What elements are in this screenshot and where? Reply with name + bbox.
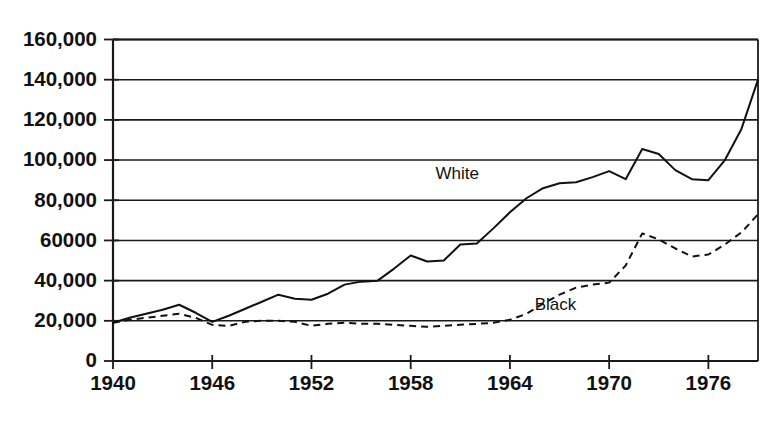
series-line-black bbox=[113, 214, 758, 327]
y-tick-label-0: 0 bbox=[86, 348, 97, 371]
x-axis-tick-labels: 1940194619521958196419701976 bbox=[90, 371, 731, 394]
x-tick-label-1970: 1970 bbox=[586, 371, 632, 394]
y-tick-label-60000: 60000 bbox=[40, 228, 97, 251]
series-label-black: Black bbox=[535, 295, 577, 314]
y-axis-tickmarks bbox=[104, 40, 119, 362]
y-tick-label-120000: 120,000 bbox=[23, 107, 97, 130]
y-tick-label-40000: 40,000 bbox=[34, 268, 97, 291]
y-tick-label-20000: 20,000 bbox=[34, 308, 97, 331]
y-tick-label-160000: 160,000 bbox=[23, 27, 97, 50]
series-annotations: WhiteBlack bbox=[436, 164, 577, 315]
y-axis-tick-labels: 020,00040,0006000080,000100,000120,00014… bbox=[23, 27, 97, 372]
data-series-layer bbox=[113, 80, 758, 327]
y-tick-label-80000: 80,000 bbox=[34, 188, 97, 211]
x-tick-label-1952: 1952 bbox=[289, 371, 335, 394]
x-tick-label-1964: 1964 bbox=[487, 371, 533, 394]
x-tick-label-1946: 1946 bbox=[189, 371, 235, 394]
y-tick-label-140000: 140,000 bbox=[23, 67, 97, 90]
series-label-white: White bbox=[436, 164, 479, 183]
line-chart: 020,00040,0006000080,000100,000120,00014… bbox=[0, 0, 781, 434]
x-tick-label-1976: 1976 bbox=[686, 371, 732, 394]
x-tick-label-1940: 1940 bbox=[90, 371, 136, 394]
x-tick-label-1958: 1958 bbox=[388, 371, 434, 394]
y-tick-label-100000: 100,000 bbox=[23, 147, 97, 170]
series-line-white bbox=[113, 80, 758, 323]
chart-canvas: 020,00040,0006000080,000100,000120,00014… bbox=[0, 0, 781, 434]
